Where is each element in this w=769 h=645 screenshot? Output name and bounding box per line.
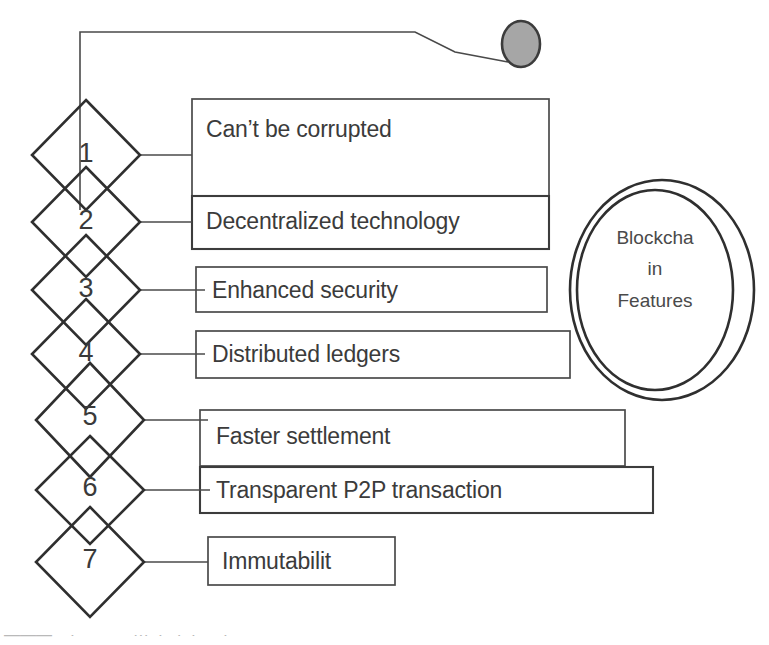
- feature-box-5: [200, 410, 625, 466]
- blockchain-ellipse-inner: [577, 190, 733, 390]
- feature-box-2: [192, 196, 549, 249]
- diamond-7: [36, 507, 144, 617]
- diagram-svg: [0, 0, 769, 645]
- feature-box-6: [200, 467, 653, 513]
- gray-dot-marker: [502, 21, 540, 67]
- feature-box-4: [196, 331, 570, 378]
- feature-box-3: [196, 267, 547, 312]
- feature-box-1: [192, 99, 549, 196]
- diagram-canvas: 1 2 3 4 5 6 7 Can’t be corrupted Decentr…: [0, 0, 769, 645]
- clipped-footer-text: ——— · ··· · · · ·: [4, 635, 228, 644]
- clipped-footer-strip: ——— · ··· · · · ·: [0, 635, 769, 645]
- feature-box-7: [208, 537, 395, 585]
